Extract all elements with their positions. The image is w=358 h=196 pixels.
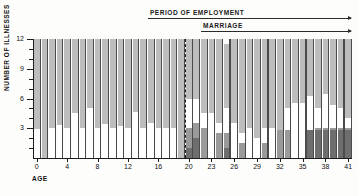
x-axis-line (33, 158, 352, 159)
x-tick-label: 20 (185, 163, 193, 170)
bar-divider (116, 39, 117, 158)
annotation-rule-employment (148, 18, 351, 19)
bar-divider (237, 39, 238, 158)
x-tick (234, 158, 235, 162)
x-tick-label: 23 (208, 163, 216, 170)
bar-divider (176, 39, 177, 158)
bar-divider (108, 39, 109, 158)
x-tick-label: 38 (322, 163, 330, 170)
bar-divider (245, 39, 246, 158)
y-tick (29, 49, 33, 50)
x-tick-label: 0 (35, 163, 39, 170)
bar-divider (131, 39, 132, 158)
bar-divider (192, 39, 193, 158)
y-axis-line (33, 39, 34, 158)
annotation-label-employment: PERIOD OF EMPLOYMENT (150, 9, 244, 16)
x-tick-label: 41 (344, 163, 352, 170)
bar-divider (154, 39, 155, 158)
x-tick-label: 12 (124, 163, 132, 170)
bar-divider (267, 39, 268, 158)
bar-divider (123, 39, 124, 158)
marker-line-age20 (185, 39, 186, 158)
bar-divider (298, 39, 299, 158)
bar-divider (229, 39, 230, 158)
bar-divider (85, 39, 86, 158)
x-tick-label: 32 (276, 163, 284, 170)
bar-divider (161, 39, 162, 158)
x-tick-label: 16 (154, 163, 162, 170)
y-tick (27, 128, 33, 129)
y-tick (29, 59, 33, 60)
bar-divider (78, 39, 79, 158)
bar-divider (62, 39, 63, 158)
bar-divider (252, 39, 253, 158)
y-tick (27, 99, 33, 100)
bar-divider (100, 39, 101, 158)
bar-divider (222, 39, 223, 158)
x-axis-title: AGE (32, 175, 48, 182)
x-tick (158, 158, 159, 162)
y-tick-label: 12 (10, 35, 24, 42)
bar-divider (290, 39, 291, 158)
bar-divider (351, 39, 352, 158)
chart-canvas: PERIOD OF EMPLOYMENT MARRIAGE NUMBER OF … (0, 0, 358, 196)
bar-divider (214, 39, 215, 158)
y-tick (29, 118, 33, 119)
y-axis-title: NUMBER OF ILLNESSES (3, 4, 10, 91)
bar-divider (55, 39, 56, 158)
y-tick (29, 79, 33, 80)
bar-divider (275, 39, 276, 158)
bar-divider (70, 39, 71, 158)
bar-divider (40, 39, 41, 158)
x-tick-label: 26 (230, 163, 238, 170)
bar-divider (146, 39, 147, 158)
y-tick-label: 9 (10, 65, 24, 72)
plot-area: NUMBER OF ILLNESSES 36912 04812162023262… (33, 39, 352, 158)
bar-divider (336, 39, 337, 158)
bar-divider (313, 39, 314, 158)
bar-divider (321, 39, 322, 158)
annotation-rule-marriage (201, 31, 351, 32)
bar-divider (207, 39, 208, 158)
y-tick-label: 6 (10, 95, 24, 102)
x-tick-label: 35 (299, 163, 307, 170)
x-tick (128, 158, 129, 162)
bar-divider (199, 39, 200, 158)
x-tick (325, 158, 326, 162)
x-tick-label: 29 (253, 163, 261, 170)
x-tick (189, 158, 190, 162)
y-tick (29, 89, 33, 90)
bar-divider (305, 39, 306, 158)
y-tick-label: 3 (10, 124, 24, 131)
bar-divider (328, 39, 329, 158)
x-tick (303, 158, 304, 162)
bar-divider (260, 39, 261, 158)
x-tick (211, 158, 212, 162)
bar-divider (169, 39, 170, 158)
y-tick (29, 138, 33, 139)
bar-divider (93, 39, 94, 158)
x-tick (280, 158, 281, 162)
bar-divider (283, 39, 284, 158)
x-tick (98, 158, 99, 162)
x-tick-label: 4 (65, 163, 69, 170)
y-tick (27, 69, 33, 70)
x-tick (348, 158, 349, 162)
bar-divider (343, 39, 344, 158)
x-tick (37, 158, 38, 162)
y-tick (29, 148, 33, 149)
y-tick (27, 39, 33, 40)
x-tick (257, 158, 258, 162)
y-tick (29, 108, 33, 109)
x-tick-label: 8 (96, 163, 100, 170)
annotation-label-marriage: MARRIAGE (203, 22, 243, 29)
x-tick (67, 158, 68, 162)
bar-divider (138, 39, 139, 158)
bar-divider (47, 39, 48, 158)
